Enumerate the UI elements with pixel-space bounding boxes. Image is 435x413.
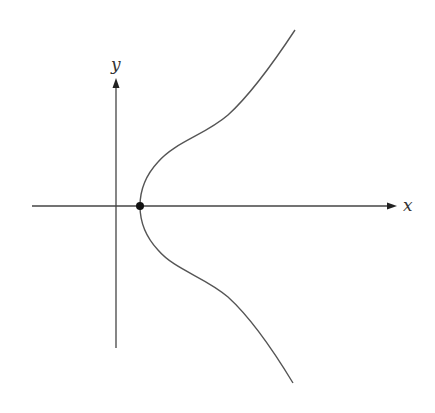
x-intercept-point — [136, 202, 144, 210]
y-axis-arrow-icon — [113, 78, 120, 88]
plot-canvas — [0, 0, 435, 413]
x-axis-label: x — [403, 197, 413, 214]
curve-figure: x y — [0, 0, 435, 413]
x-axis-arrow-icon — [387, 203, 397, 210]
y-axis-label: y — [111, 56, 121, 73]
